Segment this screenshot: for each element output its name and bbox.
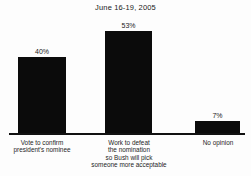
- category-label-line: the nomination: [74, 146, 184, 153]
- bar-rect: [18, 57, 66, 134]
- plot-area: 40% 53% 7% Vote to confirm president's n…: [0, 0, 251, 176]
- bar-group: 53%: [105, 31, 152, 134]
- bar-value-label: 53%: [105, 22, 152, 29]
- category-label-line: someone more acceptable: [74, 161, 184, 168]
- bar-rect: [105, 31, 152, 134]
- bar-value-label: 7%: [195, 112, 240, 119]
- category-label-line: so Bush will pick: [74, 154, 184, 161]
- x-axis-category-label: No opinion: [182, 139, 251, 146]
- bar-chart: June 16-19, 2005 40% 53% 7% Vote to conf…: [0, 0, 251, 176]
- category-label-line: Work to defeat: [74, 139, 184, 146]
- bar-value-label: 40%: [18, 48, 66, 55]
- x-axis-category-label: Work to defeat the nomination so Bush wi…: [74, 139, 184, 169]
- category-label-line: No opinion: [182, 139, 251, 146]
- x-axis-line: [9, 133, 245, 135]
- bar-group: 40%: [18, 57, 66, 134]
